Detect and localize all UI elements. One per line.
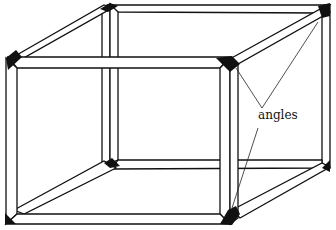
front-left-post — [6, 58, 17, 224]
bottom-right-depth-bar — [232, 163, 330, 218]
back-top-bar — [108, 5, 330, 13]
cube-frame-diagram: angles — [0, 0, 336, 230]
back-left-post — [102, 4, 110, 166]
front-right-post — [220, 58, 230, 224]
pointer-to-top-right-front-joint — [236, 68, 262, 108]
top-right-depth-bar — [228, 8, 330, 64]
top-left-depth-bar — [8, 5, 112, 60]
front-top-bar — [8, 57, 230, 68]
back-bottom-bar — [112, 160, 322, 169]
front-right-post-inner — [230, 58, 238, 224]
front-bottom-bar — [6, 214, 230, 224]
back-left-post-inner — [110, 4, 118, 163]
angles-label: angles — [258, 109, 298, 121]
back-right-post — [322, 5, 330, 168]
bottom-left-depth-bar — [14, 161, 116, 214]
